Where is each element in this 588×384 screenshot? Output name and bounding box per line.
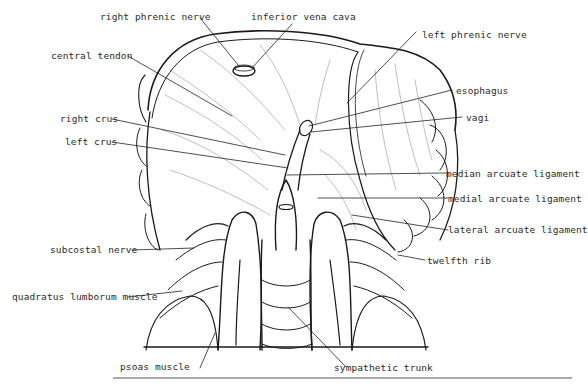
label-inferior-vena-cava: inferior vena cava — [251, 11, 356, 22]
label-quadratus-lumborum-muscle: quadratus lumborum muscle — [12, 291, 158, 302]
label-vagi: vagi — [466, 112, 489, 123]
psoas-muscle-right — [218, 212, 261, 350]
vertebral-column — [261, 240, 312, 350]
diaphragm-dome-outline — [148, 31, 456, 130]
label-central-tendon: central tendon — [51, 50, 132, 61]
label-twelfth-rib: twelfth rib — [427, 255, 491, 266]
label-subcostal-nerve: subcostal nerve — [50, 244, 137, 255]
label-median-arcuate-ligament: median arcuate ligament — [446, 168, 580, 179]
label-left-crus: left crus — [65, 136, 117, 147]
label-right-phrenic-nerve: right phrenic nerve — [100, 11, 211, 22]
label-left-phrenic-nerve: left phrenic nerve — [422, 29, 527, 40]
label-sympathetic-trunk: sympathetic trunk — [334, 362, 433, 373]
label-lateral-arcuate-ligament: lateral arcuate ligament — [448, 224, 588, 235]
esophageal-hiatus — [297, 118, 315, 138]
label-medial-arcuate-ligament: medial arcuate ligament — [448, 193, 582, 204]
label-right-crus: right crus — [60, 113, 118, 124]
label-psoas-muscle: psoas muscle — [120, 361, 190, 372]
psoas-muscle-left — [310, 212, 352, 350]
aortic-hiatus — [275, 180, 296, 250]
label-esophagus: esophagus — [456, 85, 508, 96]
